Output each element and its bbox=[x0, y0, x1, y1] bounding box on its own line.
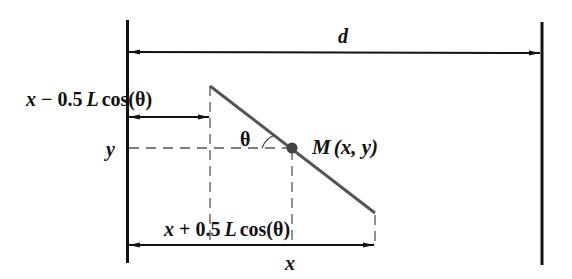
left-offset-label: x − 0.5Lcos(θ) bbox=[25, 88, 152, 111]
distance-arrow bbox=[129, 52, 540, 53]
right-offset-label: x + 0.5Lcos(θ) bbox=[163, 218, 290, 241]
distance-label: d bbox=[338, 25, 349, 47]
point-m bbox=[287, 143, 298, 154]
y-coordinate-label: y bbox=[104, 138, 115, 161]
x-coordinate-label: x bbox=[284, 252, 295, 274]
angle-label: θ bbox=[240, 128, 250, 150]
angle-arc-icon bbox=[262, 135, 275, 148]
diagram-canvas: d x − 0.5Lcos(θ) y θ M(x, y) x + 0.5Lcos… bbox=[0, 0, 572, 279]
point-label: M(x, y) bbox=[311, 135, 378, 159]
